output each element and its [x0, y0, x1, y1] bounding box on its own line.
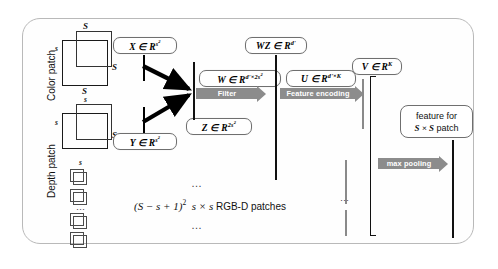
encoded-vector-bracket	[370, 76, 376, 236]
caption-depth-patch: Depth patch	[46, 144, 57, 198]
color-patch-left-label: s	[55, 44, 58, 53]
box-w-filter-weights: W ∈ Rd'×2s2	[199, 70, 281, 87]
center-caption: (S − s + 1)2 s × s RGB-D patches	[134, 198, 286, 212]
feature-box-line1: feature for	[416, 110, 457, 122]
wz-vector-bar	[275, 55, 277, 180]
center-caption-patch-size: s × s	[192, 200, 213, 212]
pooled-vector-ellipsis: ⋮	[342, 196, 345, 206]
box-y-text: Y ∈ Rs2	[130, 135, 161, 148]
patch-stack-top-label: s	[79, 158, 82, 167]
v-encoded-vector-bar	[362, 79, 364, 129]
color-patch-inner-square	[76, 31, 112, 67]
z-concat-bar	[193, 62, 195, 120]
center-ellipsis-bottom: …	[191, 219, 203, 231]
band-filter-label: Filter	[218, 89, 237, 98]
box-u-codebook: U ∈ Rd'×K	[286, 70, 356, 87]
box-z-text: Z ∈ R2s2	[202, 120, 236, 133]
band-feature-encoding-label: Feature encoding	[286, 89, 349, 98]
box-x-vector: X ∈ Rs2	[113, 37, 177, 54]
patch-stack-item-shadow	[73, 172, 87, 185]
center-ellipsis-top: …	[191, 177, 203, 189]
center-caption-exponent: 2	[182, 198, 186, 207]
color-patch-right-label: S	[112, 62, 117, 72]
box-z-vector: Z ∈ R2s2	[186, 118, 252, 135]
center-caption-formula: (S − s + 1)	[134, 200, 182, 212]
caption-color-patch: Color patch	[46, 50, 57, 101]
box-u-text: U ∈ Rd'×K	[301, 72, 341, 84]
band-feature-encoding: Feature encoding	[280, 88, 356, 99]
box-v-text: V ∈ RK	[362, 60, 393, 72]
box-feature-for-patch: feature for S × S patch	[400, 105, 473, 138]
figure-canvas: Color patch Depth patch S s S S s s S s …	[0, 0, 498, 269]
color-patch-top-label: S	[83, 21, 88, 31]
y-vector-bar	[143, 107, 145, 133]
feature-box-patch-symbol: S × S	[414, 123, 434, 133]
patch-stack-item-shadow	[73, 192, 87, 205]
box-w-text: W ∈ Rd'×2s2	[217, 72, 263, 85]
center-caption-tail: RGB-D patches	[216, 201, 286, 212]
patch-stack-item-shadow	[73, 216, 87, 229]
pooled-vector-bar	[345, 210, 347, 236]
x-vector-bar	[143, 55, 145, 81]
band-max-pooling-label: max pooling	[387, 159, 432, 168]
depth-patch-top-label: s	[84, 95, 87, 104]
box-y-vector: Y ∈ Rs2	[113, 133, 177, 150]
final-feature-vector-bar	[452, 140, 454, 238]
box-wz-text: WZ ∈ Rd'	[256, 39, 296, 51]
depth-patch-inner-square	[76, 104, 112, 140]
patch-stack-item-shadow	[73, 235, 87, 248]
band-max-pooling: max pooling	[378, 158, 440, 169]
box-wz-vector: WZ ∈ Rd'	[245, 37, 307, 54]
feature-box-patch-tail: patch	[434, 123, 459, 133]
band-filter: Filter	[196, 88, 258, 99]
box-v-vector: V ∈ RK	[352, 58, 402, 75]
feature-box-line2: S × S patch	[414, 122, 458, 134]
box-x-text: X ∈ Rs2	[129, 39, 161, 52]
depth-patch-left-label: s	[55, 118, 58, 127]
